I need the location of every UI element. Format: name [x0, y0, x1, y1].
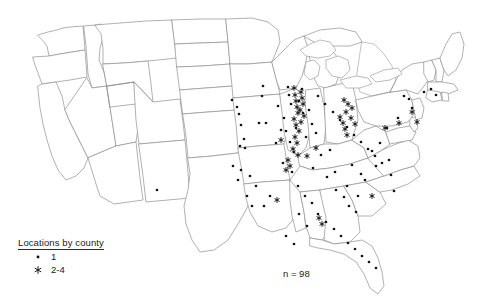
map-marker-dot — [435, 94, 438, 97]
map-marker-dot — [251, 205, 254, 208]
map-marker-dot — [263, 205, 266, 208]
legend-item-range: 2-4 — [30, 263, 104, 276]
map-marker-dot — [334, 171, 337, 174]
map-marker-dot — [408, 98, 411, 101]
map-marker-dot — [298, 213, 301, 216]
us-dot-density-map: Locations by county 1 2-4 n = 98 — [0, 0, 483, 307]
map-marker-dot — [262, 85, 265, 88]
map-marker-dot — [240, 124, 243, 127]
map-marker-dot — [277, 105, 280, 108]
map-marker-dot — [423, 91, 426, 94]
map-marker-dot — [291, 171, 294, 174]
map-marker-dot — [287, 86, 290, 89]
map-marker-dot — [288, 94, 291, 97]
map-marker-dot — [269, 195, 272, 198]
map-marker-dot — [335, 189, 338, 192]
map-marker-dot — [240, 169, 243, 172]
map-marker-dot — [325, 221, 328, 224]
map-marker-dot — [343, 196, 346, 199]
map-marker-dot — [308, 109, 311, 112]
map-marker-dot — [249, 175, 252, 178]
map-marker-dot — [361, 255, 364, 258]
map-marker-dot — [232, 165, 235, 168]
map-marker-dot — [329, 149, 332, 152]
map-marker-dot — [305, 136, 308, 139]
map-marker-dot — [282, 162, 285, 165]
map-marker-dot — [390, 174, 393, 177]
map-marker-dot — [275, 142, 278, 145]
map-marker-dot — [243, 138, 246, 141]
map-marker-dot — [333, 228, 336, 231]
map-marker-dot — [304, 195, 307, 198]
map-marker-dot — [317, 95, 320, 98]
map-marker-dot — [348, 205, 351, 208]
map-marker-dot — [255, 185, 258, 188]
map-marker-dot — [306, 225, 309, 228]
map-marker-dot — [403, 95, 406, 98]
legend-item-single: 1 — [30, 250, 104, 263]
map-marker-dot — [293, 243, 296, 246]
map-marker-dot — [353, 134, 356, 137]
map-legend: Locations by county 1 2-4 — [18, 232, 104, 276]
legend-label-single: 1 — [51, 251, 56, 262]
map-marker-dot — [312, 167, 315, 170]
map-marker-dot — [285, 130, 288, 133]
map-marker-dot — [231, 99, 234, 102]
map-marker-dot — [347, 242, 350, 245]
map-marker-dot — [283, 117, 286, 120]
map-marker-dot — [311, 202, 314, 205]
map-marker-dot — [430, 88, 433, 91]
map-marker-dot — [290, 103, 293, 106]
map-marker-dot — [265, 122, 268, 125]
map-marker-dot — [326, 176, 329, 179]
map-marker-dot — [320, 154, 323, 157]
map-marker-dot — [285, 235, 288, 238]
dot-icon — [30, 252, 46, 262]
map-marker-dot — [311, 123, 314, 126]
map-marker-dot — [236, 106, 239, 109]
asterisk-icon — [30, 265, 46, 275]
map-marker-dot — [237, 179, 240, 182]
map-marker-dot — [340, 235, 343, 238]
map-marker-dot — [375, 267, 378, 270]
map-marker-dot — [364, 179, 367, 182]
map-marker-dot — [397, 117, 400, 120]
map-marker-dot — [360, 173, 363, 176]
map-marker-dot — [355, 211, 358, 214]
sample-size-annotation: n = 98 — [283, 268, 310, 279]
map-marker-dot — [381, 162, 384, 165]
legend-title: Locations by county — [18, 237, 104, 250]
map-marker-dot — [374, 155, 377, 158]
map-marker-dot — [315, 132, 318, 135]
map-marker-dot — [354, 248, 357, 251]
map-marker-dot — [317, 213, 320, 216]
map-marker-dot — [332, 111, 335, 114]
map-marker-dot — [375, 165, 378, 168]
map-marker-dot — [280, 129, 283, 132]
map-marker-dot — [324, 103, 327, 106]
map-marker-dot — [379, 142, 382, 145]
map-marker-dot — [388, 159, 391, 162]
map-marker-dot — [246, 195, 249, 198]
map-marker-dot — [289, 141, 292, 144]
map-marker-dot — [357, 195, 360, 198]
map-marker-dot — [367, 148, 370, 151]
map-marker-dot — [239, 145, 242, 148]
map-marker-dot — [393, 190, 396, 193]
map-marker-dot — [411, 107, 414, 110]
map-marker-dot — [346, 185, 349, 188]
map-marker-dot — [238, 113, 241, 116]
map-marker-dot — [156, 189, 159, 192]
map-marker-dot — [368, 261, 371, 264]
map-marker-dot — [258, 122, 261, 125]
map-marker-asterisk — [288, 164, 292, 169]
map-marker-dot — [351, 164, 354, 167]
map-marker-dot — [371, 150, 374, 153]
map-marker-dot — [297, 185, 300, 188]
map-marker-dot — [261, 95, 264, 98]
legend-label-range: 2-4 — [51, 264, 65, 275]
map-marker-dot — [360, 141, 363, 144]
map-marker-dot — [244, 147, 247, 150]
